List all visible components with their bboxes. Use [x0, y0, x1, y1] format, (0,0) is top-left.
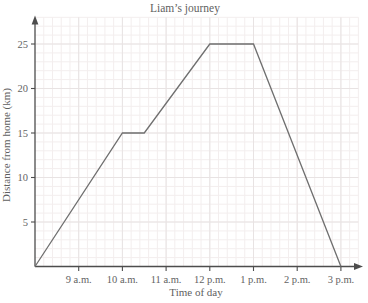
chart-title: Liam’s journey [150, 2, 220, 15]
plot-svg: 5101520259 a.m.10 a.m.11 a.m.12 p.m.1 p.… [0, 0, 368, 303]
y-tick-label: 10 [18, 172, 29, 183]
y-tick-label: 25 [18, 39, 29, 50]
y-axis-title: Distance from home (km) [0, 88, 13, 202]
x-tick-label: 10 a.m. [107, 274, 138, 285]
x-axis-title: Time of day [169, 286, 223, 298]
x-tick-label: 1 p.m. [240, 274, 267, 285]
x-tick-label: 2 p.m. [284, 274, 311, 285]
y-tick-label: 15 [18, 128, 29, 139]
x-tick-label: 12 p.m. [194, 274, 226, 285]
journey-line [35, 44, 341, 267]
y-tick-label: 20 [18, 83, 29, 94]
grid-lines [35, 17, 358, 266]
x-tick-label: 11 a.m. [151, 274, 182, 285]
distance-time-chart: 5101520259 a.m.10 a.m.11 a.m.12 p.m.1 p.… [0, 0, 368, 303]
axes [32, 16, 363, 270]
x-tick-label: 3 p.m. [328, 274, 355, 285]
y-tick-label: 5 [23, 217, 28, 228]
axis-ticks-and-labels: 5101520259 a.m.10 a.m.11 a.m.12 p.m.1 p.… [18, 39, 355, 285]
x-tick-label: 9 a.m. [66, 274, 92, 285]
